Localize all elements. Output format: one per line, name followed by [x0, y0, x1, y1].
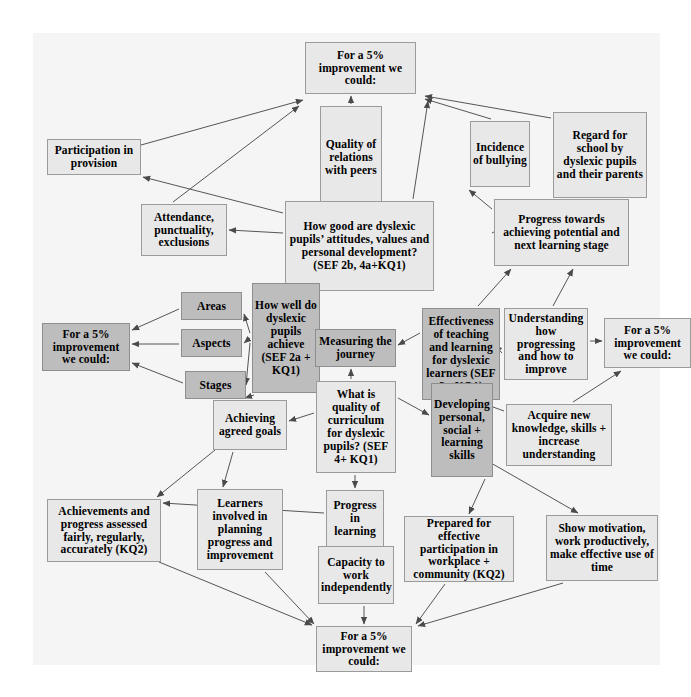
- node-curriculum[interactable]: What is quality of curriculum for dyslex…: [316, 381, 396, 473]
- node-achieving[interactable]: Achieving agreed goals: [213, 400, 287, 450]
- node-measuring[interactable]: Measuring the journey: [315, 329, 396, 367]
- edge-learners-to-improve_bottom: [265, 572, 314, 624]
- node-attendance[interactable]: Attendance, punctuality, exclusions: [141, 204, 227, 256]
- edge-stages-to-improve_left: [132, 363, 183, 383]
- edge-curriculum-to-developing: [398, 398, 429, 415]
- node-label-prepared: Prepared for effective participation in …: [407, 517, 511, 581]
- node-label-stages: Stages: [188, 379, 243, 392]
- node-label-achieving: Achieving agreed goals: [216, 412, 284, 438]
- edge-attitudes-to-improve_top: [413, 101, 428, 199]
- node-understanding[interactable]: Understanding how progressing and how to…: [504, 308, 588, 380]
- edge-achievements-to-improve_bottom: [159, 562, 312, 625]
- node-label-improve_left: For a 5% improvement we could:: [45, 328, 127, 367]
- node-label-acquire: Acquire new knowledge, skills + increase…: [509, 409, 609, 461]
- node-howwell[interactable]: How well do dyslexic pupils achieve (SEF…: [252, 283, 320, 393]
- node-progress_learn[interactable]: Progress in learning: [326, 490, 384, 547]
- node-learners[interactable]: Learners involved in planning progress a…: [197, 489, 283, 570]
- edge-effectiveness-to-progress_towards: [478, 269, 511, 306]
- edge-developing-to-motivation: [491, 463, 578, 513]
- node-label-improve_bottom: For a 5% improvement we could:: [319, 630, 409, 669]
- node-improve_bottom[interactable]: For a 5% improvement we could:: [316, 626, 412, 672]
- edge-regard-to-improve_top: [425, 96, 551, 118]
- node-label-bullying: Incidence of bullying: [473, 141, 527, 167]
- node-label-improve_top: For a 5% improvement we could:: [308, 49, 413, 88]
- node-label-learners: Learners involved in planning progress a…: [200, 497, 280, 561]
- node-improve_top[interactable]: For a 5% improvement we could:: [305, 42, 416, 94]
- edge-howwell-to-achieving: [245, 395, 254, 398]
- node-label-progress_learn: Progress in learning: [329, 499, 381, 538]
- node-improve_right[interactable]: For a 5% improvement we could:: [604, 318, 691, 368]
- node-label-developing: Developing personal, social + learning s…: [434, 398, 490, 462]
- edge-prepared-to-improve_bottom: [416, 584, 445, 624]
- edge-howwell-to-areas: [244, 314, 250, 333]
- node-areas[interactable]: Areas: [181, 292, 242, 320]
- node-label-measuring: Measuring the journey: [318, 335, 393, 361]
- edge-curriculum-to-achieving: [289, 413, 314, 421]
- node-label-participation: Participation in provision: [50, 144, 138, 170]
- node-label-effectiveness: Effectiveness of teaching and learning f…: [425, 315, 497, 392]
- diagram-canvas: For a 5% improvement we could:Participat…: [33, 33, 660, 665]
- node-label-capacity: Capacity to work independently: [321, 556, 391, 595]
- edge-participation-to-improve_top: [141, 100, 303, 145]
- node-aspects[interactable]: Aspects: [181, 329, 242, 357]
- node-label-aspects: Aspects: [184, 337, 239, 350]
- edge-motivation-to-improve_bottom: [418, 583, 563, 626]
- edge-effectiveness-to-measuring: [398, 333, 420, 345]
- node-motivation[interactable]: Show motivation, work productively, make…: [546, 515, 658, 581]
- node-capacity[interactable]: Capacity to work independently: [318, 546, 394, 604]
- node-improve_left[interactable]: For a 5% improvement we could:: [42, 323, 130, 371]
- node-label-areas: Areas: [184, 300, 239, 313]
- node-label-attitudes: How good are dyslexic pupils’ attitudes,…: [288, 220, 431, 272]
- node-label-understanding: Understanding how progressing and how to…: [507, 312, 585, 376]
- edge-attitudes-to-attendance: [229, 230, 283, 233]
- node-prepared[interactable]: Prepared for effective participation in …: [404, 516, 514, 582]
- edge-howwell-to-stages: [246, 343, 250, 385]
- node-label-progress_towards: Progress towards achieving potential and…: [497, 213, 626, 252]
- node-stages[interactable]: Stages: [185, 371, 246, 399]
- node-quality_rel[interactable]: Quality of relations with peers: [320, 106, 382, 209]
- node-label-curriculum: What is quality of curriculum for dyslex…: [319, 388, 393, 465]
- edge-progress_towards-to-bullying: [469, 190, 492, 209]
- node-achievements[interactable]: Achievements and progress assessed fairl…: [47, 499, 161, 562]
- node-attitudes[interactable]: How good are dyslexic pupils’ attitudes,…: [285, 201, 434, 291]
- node-label-regard: Regard for school by dyslexic pupils and…: [556, 129, 644, 181]
- edge-bullying-to-improve_top: [425, 99, 491, 119]
- edge-areas-to-improve_left: [132, 309, 179, 330]
- node-acquire[interactable]: Acquire new knowledge, skills + increase…: [506, 404, 612, 466]
- edge-developing-to-prepared: [469, 479, 485, 514]
- edge-understanding-to-progress_towards: [553, 269, 573, 306]
- edge-achieving-to-learners: [223, 452, 233, 487]
- node-label-improve_right: For a 5% improvement we could:: [607, 324, 688, 363]
- edge-howwell-to-aspects: [244, 338, 250, 343]
- node-regard[interactable]: Regard for school by dyslexic pupils and…: [553, 112, 647, 198]
- node-progress_towards[interactable]: Progress towards achieving potential and…: [494, 199, 629, 266]
- node-participation[interactable]: Participation in provision: [47, 139, 141, 175]
- node-bullying[interactable]: Incidence of bullying: [470, 121, 530, 187]
- node-label-howwell: How well do dyslexic pupils achieve (SEF…: [255, 299, 317, 376]
- edge-attendance-to-improve_top: [173, 106, 299, 202]
- node-label-achievements: Achievements and progress assessed fairl…: [50, 505, 158, 557]
- node-label-attendance: Attendance, punctuality, exclusions: [144, 211, 224, 250]
- node-label-motivation: Show motivation, work productively, make…: [549, 522, 655, 574]
- node-label-quality_rel: Quality of relations with peers: [323, 138, 379, 177]
- node-developing[interactable]: Developing personal, social + learning s…: [431, 383, 493, 477]
